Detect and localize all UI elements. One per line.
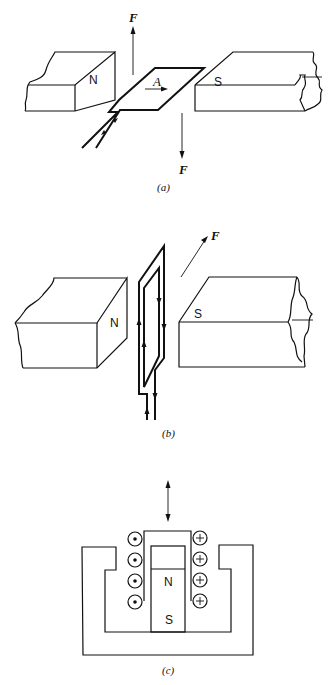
caption-a: (a) [157,182,170,193]
north-pole-label-b: N [110,317,119,329]
motion-arrow-c [166,480,171,522]
coil-b [137,246,167,420]
force-label-b: F [211,229,220,242]
panel-a [25,26,322,159]
coil-turns-right-c [193,531,207,608]
caption-b: (b) [162,428,175,439]
force-up-arrow-a [131,26,136,75]
north-pole-label-c: N [164,576,173,588]
conductor-loop-a [82,68,204,148]
force-down-label-a: F [179,163,188,176]
force-arrow-b [181,236,208,277]
pot-core-c [82,545,253,655]
south-pole-label-a: S [214,76,222,88]
coil-turns-left-c [128,532,142,609]
south-pole-label-c: S [165,614,173,626]
south-pole-label-b: S [194,308,202,320]
force-down-arrow-a [180,113,185,159]
current-direction-label-a: A [153,75,161,88]
caption-c: (c) [162,665,174,676]
panel-b [15,236,313,420]
north-magnet-a [25,52,115,111]
force-up-label-a: F [129,11,138,24]
north-pole-label-a: N [89,74,98,86]
south-magnet-b [179,277,313,367]
panel-c [82,480,253,655]
